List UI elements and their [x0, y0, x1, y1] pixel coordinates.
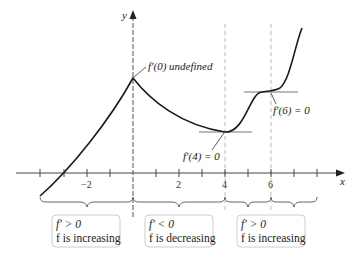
y-axis-arrow-icon [130, 10, 137, 19]
interval-3-line1: f′ > 0 [241, 218, 266, 231]
interval-1-line2: f is increasing [56, 232, 121, 245]
interval-2-line1: f′ < 0 [149, 218, 174, 231]
interval-braces [40, 197, 317, 207]
function-curve [40, 28, 302, 196]
tick-label-4: 4 [222, 179, 227, 190]
tick-label-6: 6 [268, 179, 273, 190]
interval-3-line2: f is increasing [241, 232, 306, 245]
interval-2-line2: f is decreasing [149, 232, 216, 245]
derivative-diagram: y x −2 2 4 6 f′(0) undefined f′(4) = 0 f… [0, 0, 360, 258]
leader-min [212, 133, 224, 150]
leader-inflection [271, 93, 276, 104]
x-axis-label: x [339, 175, 345, 187]
y-axis-label: y [121, 9, 127, 21]
tick-label-neg2: −2 [81, 179, 92, 190]
tick-label-2: 2 [176, 179, 181, 190]
annotation-inflection: f′(6) = 0 [273, 104, 310, 117]
leader-peak [134, 67, 146, 77]
interval-1-line1: f′ > 0 [56, 218, 81, 231]
annotation-min: f′(4) = 0 [183, 150, 220, 163]
annotation-peak: f′(0) undefined [148, 60, 213, 73]
